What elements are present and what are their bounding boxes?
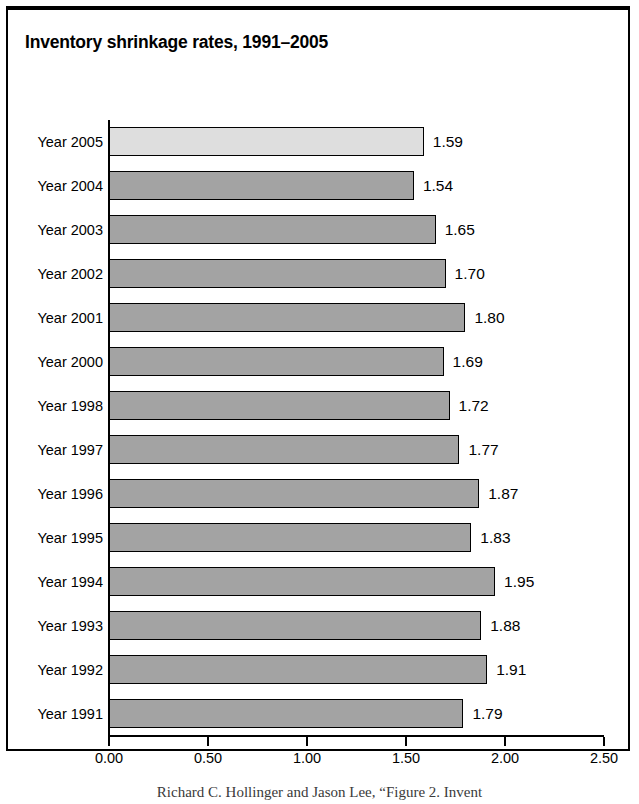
x-axis-tick-mark xyxy=(405,737,407,746)
bar-chart-plot-area: Year 20051.59Year 20041.54Year 20031.65Y… xyxy=(8,10,632,755)
bar-row: Year 20051.59 xyxy=(8,120,632,164)
bar xyxy=(109,699,463,728)
bar-row: Year 20021.70 xyxy=(8,252,632,296)
bar xyxy=(109,479,479,508)
bar-row: Year 20001.69 xyxy=(8,340,632,384)
x-axis-tick-label: 1.00 xyxy=(293,750,321,766)
bar-value-label: 1.72 xyxy=(459,397,489,415)
bar-category-label: Year 1996 xyxy=(0,486,103,502)
bar-category-label: Year 2000 xyxy=(0,354,103,370)
bar xyxy=(109,127,424,156)
bar xyxy=(109,435,459,464)
bar-category-label: Year 1995 xyxy=(0,530,103,546)
bar-row: Year 19951.83 xyxy=(8,516,632,560)
bar xyxy=(109,567,495,596)
bar-category-label: Year 1994 xyxy=(0,574,103,590)
bar-value-label: 1.69 xyxy=(453,353,483,371)
x-axis-tick-label: 0.00 xyxy=(95,750,123,766)
bar-row: Year 19941.95 xyxy=(8,560,632,604)
bar xyxy=(109,215,436,244)
bar-value-label: 1.95 xyxy=(504,573,534,591)
bar-value-label: 1.70 xyxy=(455,265,485,283)
x-axis-tick-mark xyxy=(504,737,506,746)
bar-row: Year 20041.54 xyxy=(8,164,632,208)
bar-value-label: 1.87 xyxy=(488,485,518,503)
bar-row: Year 19981.72 xyxy=(8,384,632,428)
x-axis-tick-mark xyxy=(108,737,110,746)
figure-frame: Inventory shrinkage rates, 1991–2005 Yea… xyxy=(6,6,630,751)
bar-value-label: 1.65 xyxy=(445,221,475,239)
bar-value-label: 1.83 xyxy=(480,529,510,547)
x-axis-tick-mark xyxy=(207,737,209,746)
bar-category-label: Year 1998 xyxy=(0,398,103,414)
bar-category-label: Year 2001 xyxy=(0,310,103,326)
bar-value-label: 1.88 xyxy=(490,617,520,635)
bar-value-label: 1.79 xyxy=(472,705,502,723)
bar-category-label: Year 1997 xyxy=(0,442,103,458)
bar-row: Year 19961.87 xyxy=(8,472,632,516)
bar xyxy=(109,523,471,552)
bar xyxy=(109,259,446,288)
bar-category-label: Year 1993 xyxy=(0,618,103,634)
bar-row: Year 19911.79 xyxy=(8,692,632,736)
bar-value-label: 1.54 xyxy=(423,177,453,195)
bar-category-label: Year 2002 xyxy=(0,266,103,282)
x-axis-tick-mark xyxy=(306,737,308,746)
bar-category-label: Year 2003 xyxy=(0,222,103,238)
bar xyxy=(109,391,450,420)
bar xyxy=(109,303,465,332)
bar-value-label: 1.91 xyxy=(496,661,526,679)
bar-row: Year 19971.77 xyxy=(8,428,632,472)
bar-value-label: 1.80 xyxy=(474,309,504,327)
figure-caption: Richard C. Hollinger and Jason Lee, “Fig… xyxy=(6,784,633,804)
bar-row: Year 20011.80 xyxy=(8,296,632,340)
bar-row: Year 19931.88 xyxy=(8,604,632,648)
bar xyxy=(109,171,414,200)
bar-row: Year 19921.91 xyxy=(8,648,632,692)
bar xyxy=(109,611,481,640)
x-axis-tick-label: 2.50 xyxy=(590,750,618,766)
x-axis-tick-mark xyxy=(603,737,605,746)
x-axis-tick-label: 2.00 xyxy=(491,750,519,766)
bar-value-label: 1.77 xyxy=(468,441,498,459)
x-axis-tick-label: 0.50 xyxy=(194,750,222,766)
x-axis-tick-label: 1.50 xyxy=(392,750,420,766)
bar xyxy=(109,347,444,376)
bar-category-label: Year 2004 xyxy=(0,178,103,194)
bar-category-label: Year 1991 xyxy=(0,706,103,722)
bar-category-label: Year 1992 xyxy=(0,662,103,678)
bar-category-label: Year 2005 xyxy=(0,134,103,150)
bar-value-label: 1.59 xyxy=(433,133,463,151)
bar xyxy=(109,655,487,684)
bar-row: Year 20031.65 xyxy=(8,208,632,252)
